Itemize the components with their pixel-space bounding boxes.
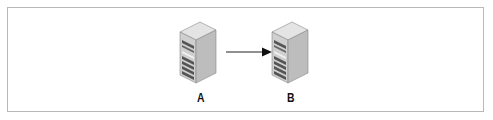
server-a-label: A xyxy=(197,91,205,104)
server-a-icon xyxy=(178,20,218,85)
server-b-icon xyxy=(270,20,310,85)
arrow-a-to-b xyxy=(224,46,274,58)
diagram-frame xyxy=(7,7,484,112)
server-b-label: B xyxy=(287,91,295,104)
